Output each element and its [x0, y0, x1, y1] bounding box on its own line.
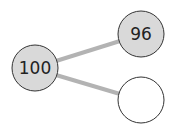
- part-circle-2-empty[interactable]: [118, 77, 164, 123]
- part-1-label: 96: [130, 24, 152, 44]
- whole-label: 100: [19, 58, 51, 78]
- connector-whole-to-part-1: [56, 41, 120, 61]
- number-bond-diagram: 100 96: [0, 0, 178, 126]
- part-circle-1: 96: [118, 11, 164, 57]
- connector-whole-to-part-2: [56, 75, 120, 94]
- whole-circle: 100: [12, 45, 58, 91]
